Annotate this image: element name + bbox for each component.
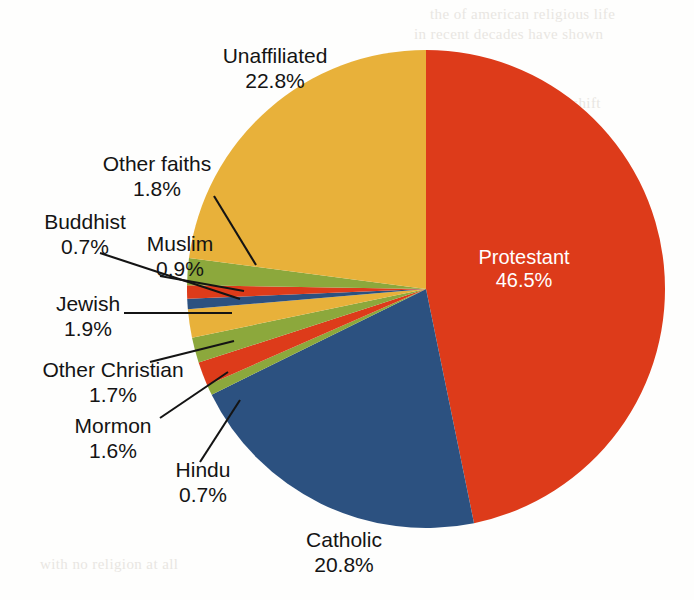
slice-label-protestant-pct: 46.5%	[452, 269, 596, 292]
slice-label-catholic-pct: 20.8%	[282, 553, 406, 578]
slice-label-protestant: Protestant 46.5%	[452, 246, 596, 293]
slice-label-muslim: Muslim 0.9%	[128, 232, 232, 281]
slice-label-other-christian: Other Christian 1.7%	[20, 358, 206, 407]
slice-label-other-faiths: Other faiths 1.8%	[84, 152, 230, 201]
slice-label-other-faiths-name: Other faiths	[84, 152, 230, 177]
slice-label-unaffiliated: Unaffiliated 22.8%	[188, 44, 362, 93]
slice-label-jewish-name: Jewish	[40, 292, 136, 317]
slice-label-hindu-name: Hindu	[160, 458, 246, 483]
slice-label-catholic-name: Catholic	[282, 528, 406, 553]
slice-label-catholic: Catholic 20.8%	[282, 528, 406, 577]
slice-label-unaffiliated-name: Unaffiliated	[188, 44, 362, 69]
slice-label-hindu-pct: 0.7%	[160, 483, 246, 508]
chart-page: the of american religious life in recent…	[0, 0, 694, 600]
slice-label-jewish: Jewish 1.9%	[40, 292, 136, 341]
slice-label-other-faiths-pct: 1.8%	[84, 177, 230, 202]
slice-label-mormon-name: Mormon	[52, 414, 174, 439]
slice-label-mormon-pct: 1.6%	[52, 439, 174, 464]
slice-label-mormon: Mormon 1.6%	[52, 414, 174, 463]
slice-label-protestant-name: Protestant	[452, 246, 596, 269]
slice-label-other-christian-pct: 1.7%	[20, 383, 206, 408]
slice-label-hindu: Hindu 0.7%	[160, 458, 246, 507]
slice-label-other-christian-name: Other Christian	[20, 358, 206, 383]
slice-label-unaffiliated-pct: 22.8%	[188, 69, 362, 94]
slice-label-muslim-name: Muslim	[128, 232, 232, 257]
slice-label-jewish-pct: 1.9%	[40, 317, 136, 342]
slice-label-muslim-pct: 0.9%	[128, 257, 232, 282]
slice-label-buddhist-name: Buddhist	[22, 210, 148, 235]
